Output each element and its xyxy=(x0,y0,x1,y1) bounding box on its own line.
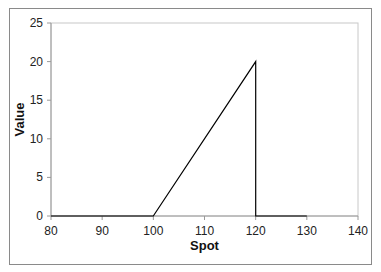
x-tick-label: 90 xyxy=(95,224,109,238)
chart-svg: 0510152025 8090100110120130140 Spot Valu… xyxy=(0,0,381,272)
x-tick-label: 100 xyxy=(143,224,163,238)
y-tick-label: 10 xyxy=(30,132,44,146)
x-tick-label: 120 xyxy=(246,224,266,238)
y-tick-label: 20 xyxy=(30,55,44,69)
y-axis: 0510152025 xyxy=(30,16,51,223)
series-line xyxy=(51,62,307,216)
x-axis: 8090100110120130140 xyxy=(44,216,368,238)
x-tick-label: 80 xyxy=(44,224,58,238)
plot-area xyxy=(51,23,358,216)
x-tick-label: 140 xyxy=(348,224,368,238)
x-axis-title: Spot xyxy=(190,238,220,253)
x-tick-label: 110 xyxy=(195,224,214,238)
y-tick-label: 0 xyxy=(36,209,43,223)
y-tick-label: 5 xyxy=(36,170,43,184)
data-series xyxy=(51,62,307,216)
x-tick-label: 130 xyxy=(297,224,317,238)
y-tick-label: 25 xyxy=(30,16,44,30)
y-axis-title: Value xyxy=(12,103,27,137)
y-tick-label: 15 xyxy=(30,93,44,107)
